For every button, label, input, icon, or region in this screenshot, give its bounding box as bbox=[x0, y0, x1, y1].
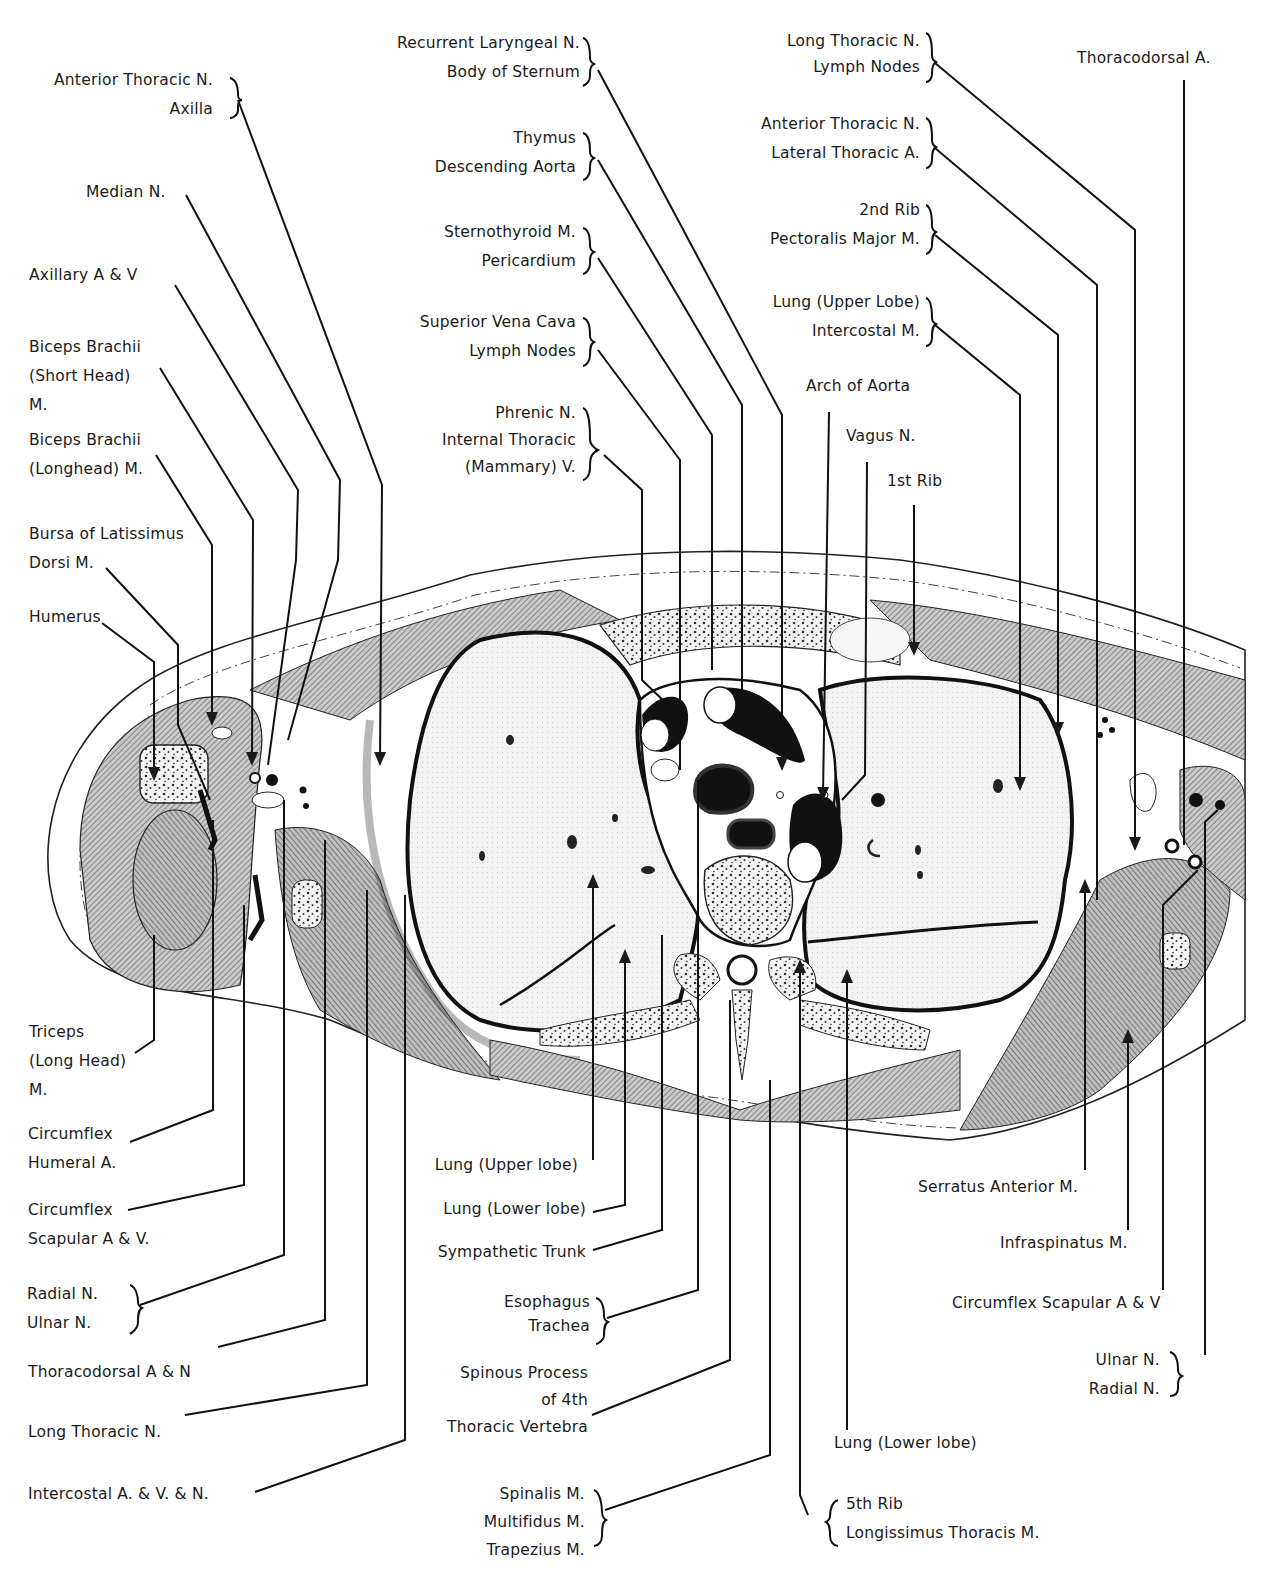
label-recurrent-laryngeal: Recurrent Laryngeal N. Body of Sternum bbox=[330, 29, 580, 87]
label-lung-upper-lobe: Lung (Upper lobe) bbox=[400, 1151, 578, 1180]
label-anterior-thoracic-axilla: Anterior Thoracic N. Axilla bbox=[20, 66, 213, 124]
label-esophagus-trachea: Esophagus Trachea bbox=[400, 1290, 590, 1338]
label-rib5-longissimus: 5th Rib Longissimus Thoracis M. bbox=[846, 1490, 1040, 1548]
label-biceps-short-head: Biceps Brachii (Short Head) M. bbox=[29, 333, 141, 420]
label-thoracodorsal-a: Thoracodorsal A. bbox=[1077, 44, 1211, 73]
rib-1-section bbox=[830, 618, 910, 662]
label-radial-ulnar-left: Radial N. Ulnar N. bbox=[27, 1280, 98, 1338]
label-humerus: Humerus bbox=[29, 603, 101, 632]
label-circumflex-scapular-right: Circumflex Scapular A & V bbox=[952, 1289, 1161, 1318]
label-phrenic-internal-thoracic: Phrenic N. Internal Thoracic (Mammary) V… bbox=[330, 400, 576, 481]
label-median-n: Median N. bbox=[86, 178, 166, 207]
label-vagus-n: Vagus N. bbox=[846, 422, 916, 451]
label-ulnar-radial-right: Ulnar N. Radial N. bbox=[1040, 1346, 1160, 1404]
label-spinous-process: Spinous Process of 4th Thoracic Vertebra bbox=[400, 1360, 588, 1441]
label-rib2-pectoralis: 2nd Rib Pectoralis Major M. bbox=[700, 196, 920, 254]
anatomy-figure: Anterior Thoracic N. Axilla Median N. Ax… bbox=[0, 0, 1265, 1585]
label-long-thoracic-left: Long Thoracic N. bbox=[28, 1418, 161, 1447]
label-biceps-long-head: Biceps Brachii (Longhead) M. bbox=[29, 426, 143, 484]
label-lung-lower-lobe-left: Lung (Lower lobe) bbox=[400, 1195, 586, 1224]
label-long-thoracic-lymph: Long Thoracic N. Lymph Nodes bbox=[700, 28, 920, 80]
humerus-bone bbox=[140, 745, 208, 803]
label-axillary-av: Axillary A & V bbox=[29, 261, 138, 290]
label-thoracodorsal-an: Thoracodorsal A & N bbox=[28, 1358, 191, 1387]
scapula-left bbox=[292, 880, 322, 928]
label-lung-lower-lobe-right: Lung (Lower lobe) bbox=[834, 1429, 977, 1458]
spinal-cord bbox=[728, 956, 756, 984]
label-serratus-anterior: Serratus Anterior M. bbox=[918, 1173, 1078, 1202]
label-circumflex-humeral: Circumflex Humeral A. bbox=[28, 1120, 116, 1178]
label-lung-upper-intercostal: Lung (Upper Lobe) Intercostal M. bbox=[700, 288, 920, 346]
label-circumflex-scapular-left: Circumflex Scapular A & V. bbox=[28, 1196, 150, 1254]
label-sympathetic-trunk: Sympathetic Trunk bbox=[400, 1238, 586, 1267]
scapula-right bbox=[1160, 933, 1190, 969]
label-sternothyroid-pericardium: Sternothyroid M. Pericardium bbox=[330, 218, 576, 276]
label-thymus-aorta: Thymus Descending Aorta bbox=[330, 124, 576, 182]
label-triceps-long-head: Triceps (Long Head) M. bbox=[29, 1018, 126, 1105]
label-svc-lymph: Superior Vena Cava Lymph Nodes bbox=[330, 308, 576, 366]
trachea bbox=[695, 766, 752, 813]
label-intercostal-avn: Intercostal A. & V. & N. bbox=[28, 1480, 209, 1509]
label-1st-rib: 1st Rib bbox=[887, 467, 942, 496]
label-spinalis-multifidus-trapezius: Spinalis M. Multifidus M. Trapezius M. bbox=[400, 1480, 585, 1564]
label-bursa-latissimus: Bursa of Latissimus Dorsi M. bbox=[29, 520, 184, 578]
label-infraspinatus: Infraspinatus M. bbox=[1000, 1229, 1128, 1258]
esophagus bbox=[728, 820, 774, 848]
left-lung-section bbox=[804, 678, 1072, 1011]
label-arch-of-aorta: Arch of Aorta bbox=[806, 372, 910, 401]
label-anterior-thoracic-lateral-thoracic: Anterior Thoracic N. Lateral Thoracic A. bbox=[700, 110, 920, 168]
